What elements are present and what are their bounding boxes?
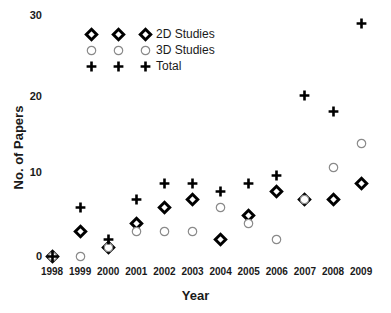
data-point-diamond-open-1999	[75, 226, 86, 237]
data-point-circle-open-2007	[299, 194, 310, 205]
legend-label-2d: 2D Studies	[156, 28, 215, 41]
data-point-plus-1998	[47, 251, 58, 262]
plus-icon	[84, 59, 98, 73]
data-point-circle-open-2008	[328, 162, 339, 173]
circle-open-icon	[84, 43, 98, 57]
data-point-plus-2002	[159, 178, 170, 189]
data-point-diamond-open-2009	[356, 178, 367, 189]
circle-open-icon	[138, 43, 152, 57]
scatter-chart: 30 20 10 0 No. of Papers 199819992000200…	[0, 0, 391, 313]
legend-keys-total	[84, 59, 152, 73]
chart-legend: 2D Studies 3D Studies Total	[84, 26, 215, 74]
data-point-plus-2009	[356, 18, 367, 29]
data-point-plus-2005	[243, 178, 254, 189]
data-point-circle-open-2005	[243, 218, 254, 229]
legend-row-2d: 2D Studies	[84, 26, 215, 42]
data-point-plus-2007	[299, 90, 310, 101]
data-point-circle-open-1999	[75, 251, 86, 262]
data-point-diamond-open-2003	[187, 194, 198, 205]
data-point-diamond-open-2008	[328, 194, 339, 205]
data-point-plus-2004	[215, 186, 226, 197]
diamond-open-icon	[84, 27, 98, 41]
plus-icon	[111, 59, 125, 73]
data-point-diamond-open-2006	[271, 186, 282, 197]
data-point-plus-2001	[131, 194, 142, 205]
data-point-plus-2008	[328, 106, 339, 117]
data-point-plus-2000	[103, 234, 114, 245]
legend-label-3d: 3D Studies	[156, 44, 215, 57]
data-point-plus-2003	[187, 178, 198, 189]
data-point-diamond-open-2004	[215, 234, 226, 245]
x-tick-2009: 2009	[344, 266, 378, 277]
legend-row-3d: 3D Studies	[84, 42, 215, 58]
data-point-diamond-open-2002	[159, 202, 170, 213]
circle-open-icon	[111, 43, 125, 57]
legend-keys-2d	[84, 27, 152, 41]
diamond-open-icon	[138, 27, 152, 41]
x-axis-title: Year	[0, 288, 391, 303]
data-point-circle-open-2001	[131, 226, 142, 237]
legend-row-total: Total	[84, 58, 215, 74]
data-point-plus-1999	[75, 202, 86, 213]
data-point-circle-open-2009	[356, 138, 367, 149]
data-point-circle-open-2004	[215, 202, 226, 213]
data-point-circle-open-2002	[159, 226, 170, 237]
data-point-plus-2006	[271, 170, 282, 181]
data-point-circle-open-2003	[187, 226, 198, 237]
legend-label-total: Total	[156, 60, 181, 73]
legend-keys-3d	[84, 43, 152, 57]
plus-icon	[138, 59, 152, 73]
data-point-circle-open-2006	[271, 234, 282, 245]
diamond-open-icon	[111, 27, 125, 41]
